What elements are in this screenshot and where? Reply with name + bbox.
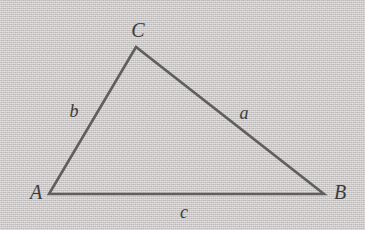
triangle-figure: A B C a b c: [0, 0, 365, 230]
side-label-c: c: [180, 203, 188, 221]
triangle-outline: [49, 47, 324, 194]
vertex-label-b: B: [334, 182, 346, 202]
vertex-label-c: C: [131, 20, 144, 40]
vertex-label-a: A: [30, 182, 42, 202]
side-label-b: b: [70, 102, 79, 120]
side-label-a: a: [240, 104, 249, 122]
triangle-diagram-svg: [0, 0, 365, 230]
